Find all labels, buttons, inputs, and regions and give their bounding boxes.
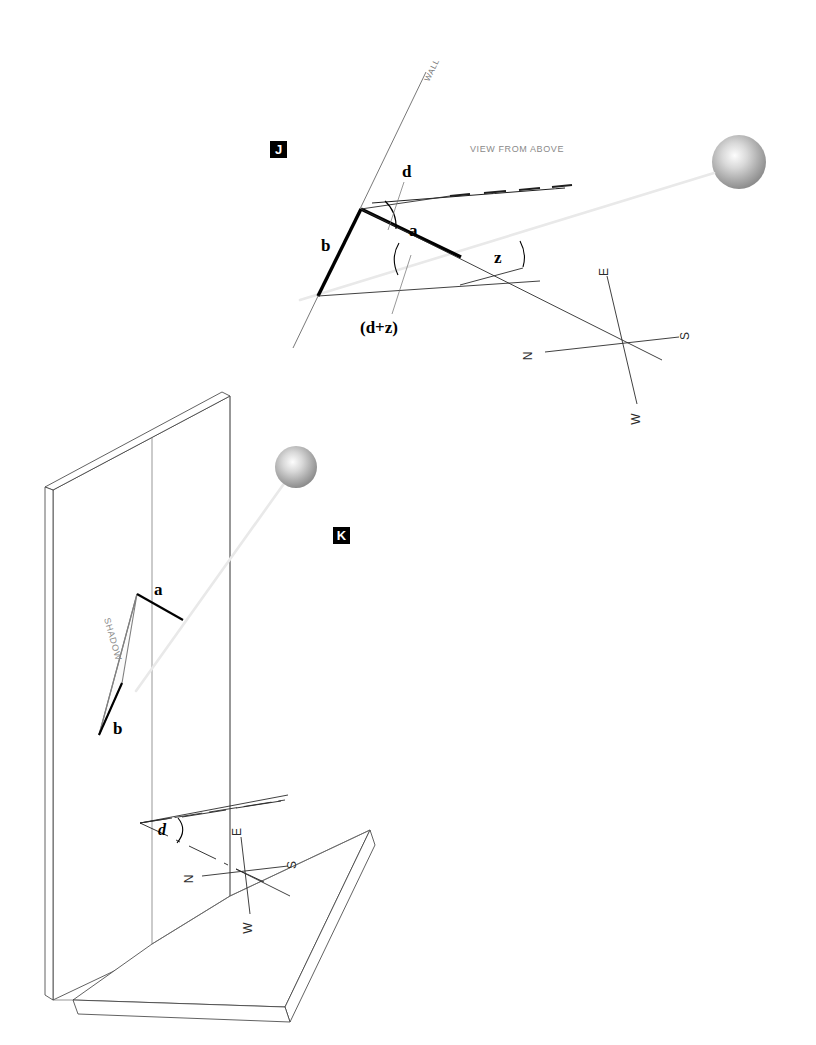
figure-root: J VIEW FROM ABOVE WALL: [0, 0, 816, 1045]
compass-label-east-k: E: [230, 828, 244, 836]
compass-label-north-j: N: [521, 352, 535, 361]
angle-d-label-k: d: [158, 821, 167, 838]
label-a-j: a: [409, 221, 418, 240]
sun-sphere: [275, 446, 317, 488]
compass-label-south-j: S: [678, 332, 692, 340]
compass-label-south-k: S: [285, 861, 299, 869]
dashed-azimuth-j: [450, 185, 572, 196]
panel-j-tag: J: [270, 141, 287, 158]
compass-label-west-j: W: [629, 413, 643, 425]
wall-slab-k: [45, 392, 230, 1000]
compass-label-west-k: W: [241, 922, 255, 934]
compass-axis-ns-j: [545, 337, 679, 352]
diagram-canvas: J VIEW FROM ABOVE WALL: [0, 0, 816, 1045]
panel-k-tag-label: K: [337, 528, 347, 543]
label-b-j: b: [321, 236, 330, 255]
panel-j: J VIEW FROM ABOVE WALL: [270, 57, 766, 424]
label-b-k: b: [113, 719, 122, 738]
panel-k-tag: K: [333, 527, 350, 544]
compass-label-east-j: E: [597, 268, 611, 276]
sun-sphere: [712, 135, 766, 189]
compass-axis-ew-j: [607, 276, 637, 404]
compass-rose-j: E W N S: [521, 268, 692, 425]
compass-label-north-k: N: [182, 875, 196, 884]
angle-arc-z-j: [520, 241, 524, 267]
shadow-direction-line-j: [361, 209, 662, 360]
panel-j-tag-label: J: [275, 142, 282, 157]
view-from-above-caption: VIEW FROM ABOVE: [470, 144, 564, 154]
wall-face: [53, 396, 230, 1000]
sun-j: [712, 135, 766, 189]
wall-left-edge: [45, 487, 53, 1000]
angle-d-label-j: d: [402, 162, 412, 181]
angle-dz-label-j: (d+z): [360, 318, 398, 337]
panel-k: K: [45, 392, 375, 1022]
wall-label-j: WALL: [423, 57, 442, 82]
label-a-k: a: [154, 580, 163, 599]
angle-z-label-j: z: [494, 248, 502, 267]
